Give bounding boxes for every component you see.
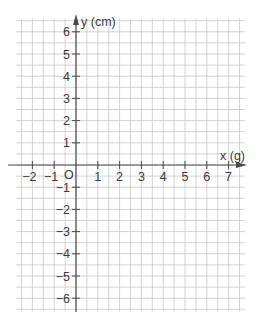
y-tick-label: 1 <box>63 136 70 150</box>
x-tick-label: 5 <box>182 170 189 184</box>
y-tick-label: −6 <box>56 292 70 306</box>
y-tick-label: −4 <box>56 247 70 261</box>
y-axis-arrow-icon <box>73 14 79 25</box>
y-tick-label: −3 <box>56 225 70 239</box>
x-tick-label: 2 <box>116 170 123 184</box>
coordinate-plane: −2−11234567654321−1−2−3−4−5−6 x (g) y (c… <box>0 0 259 326</box>
y-axis-label: y (cm) <box>81 15 116 29</box>
x-tick-label: 6 <box>203 170 210 184</box>
x-tick-label: 4 <box>160 170 167 184</box>
origin-label: O <box>64 168 74 182</box>
y-tick-label: 2 <box>63 114 70 128</box>
x-tick-label: 1 <box>94 170 101 184</box>
y-tick-label: −2 <box>56 203 70 217</box>
y-tick-label: 3 <box>63 92 70 106</box>
x-tick-label: 7 <box>225 170 232 184</box>
y-tick-label: −1 <box>56 181 70 195</box>
x-tick-label: 3 <box>138 170 145 184</box>
y-tick-label: −5 <box>56 270 70 284</box>
y-tick-label: 5 <box>63 48 70 62</box>
y-tick-label: 4 <box>63 70 70 84</box>
x-axis-label: x (g) <box>220 149 245 163</box>
axes <box>8 14 247 312</box>
y-tick-label: 6 <box>63 25 70 39</box>
x-tick-label: −2 <box>22 170 36 184</box>
